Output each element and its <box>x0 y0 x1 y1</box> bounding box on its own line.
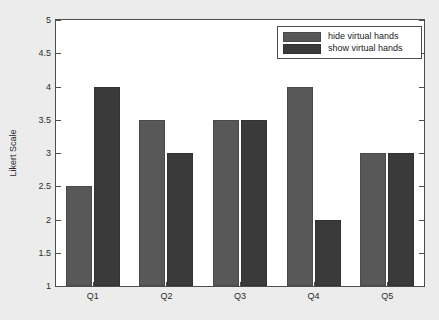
bars-layer <box>56 20 424 286</box>
y-tick-mark <box>56 153 61 154</box>
legend-item-0: hide virtual hands <box>283 31 416 42</box>
legend-label: show virtual hands <box>328 44 403 53</box>
plot-area: 11.522.533.544.55Q1Q2Q3Q4Q5 <box>55 19 425 287</box>
legend-item-1: show virtual hands <box>283 43 416 54</box>
y-tick-mark <box>56 286 61 287</box>
x-tick-mark <box>314 282 315 286</box>
x-tick-label-q4: Q4 <box>308 292 320 301</box>
y-tick-label: 3 <box>46 149 51 158</box>
y-tick-label: 2 <box>46 215 51 224</box>
y-tick-mark-right <box>419 20 424 21</box>
y-tick-mark-right <box>419 186 424 187</box>
y-tick-mark <box>56 53 61 54</box>
y-tick-label: 2.5 <box>38 182 51 191</box>
chart-legend: hide virtual handsshow virtual hands <box>277 26 422 59</box>
chart-figure: Likert Scale 11.522.533.544.55Q1Q2Q3Q4Q5… <box>0 0 439 320</box>
y-tick-mark-right <box>419 153 424 154</box>
y-tick-mark <box>56 253 61 254</box>
y-tick-mark-right <box>419 87 424 88</box>
y-tick-mark-right <box>419 120 424 121</box>
bar-q1-series1 <box>94 87 120 287</box>
bar-q4-series1 <box>315 220 341 287</box>
y-tick-label: 4.5 <box>38 49 51 58</box>
bar-q2-series1 <box>167 153 193 286</box>
y-tick-mark <box>56 186 61 187</box>
bar-q5-series1 <box>388 153 414 286</box>
x-tick-label-q3: Q3 <box>234 292 246 301</box>
y-tick-label: 1.5 <box>38 248 51 257</box>
x-tick-label-q2: Q2 <box>160 292 172 301</box>
bar-q3-series1 <box>241 120 267 286</box>
y-tick-mark-right <box>419 286 424 287</box>
x-tick-mark <box>240 282 241 286</box>
bar-q3-series0 <box>213 120 239 286</box>
y-tick-label: 1 <box>46 282 51 291</box>
bar-q5-series0 <box>360 153 386 286</box>
legend-swatch-icon <box>283 44 321 54</box>
legend-swatch-icon <box>283 32 321 42</box>
bar-q1-series0 <box>66 186 92 286</box>
y-tick-mark <box>56 120 61 121</box>
x-tick-mark <box>387 282 388 286</box>
y-tick-mark <box>56 87 61 88</box>
y-tick-label: 5 <box>46 16 51 25</box>
x-tick-mark <box>166 282 167 286</box>
legend-label: hide virtual hands <box>328 32 399 41</box>
y-tick-label: 3.5 <box>38 115 51 124</box>
bar-q4-series0 <box>287 87 313 287</box>
y-axis-title: Likert Scale <box>8 129 18 176</box>
y-tick-mark-right <box>419 253 424 254</box>
y-tick-label: 4 <box>46 82 51 91</box>
y-tick-mark-right <box>419 220 424 221</box>
x-tick-label-q1: Q1 <box>87 292 99 301</box>
bar-q2-series0 <box>139 120 165 286</box>
y-tick-mark <box>56 220 61 221</box>
x-tick-label-q5: Q5 <box>381 292 393 301</box>
y-tick-mark <box>56 20 61 21</box>
x-tick-mark <box>93 282 94 286</box>
